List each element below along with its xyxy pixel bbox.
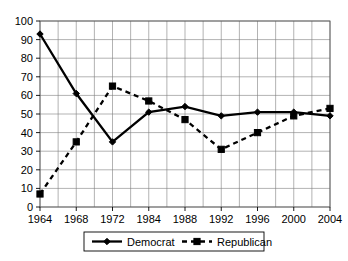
y-tick-label: 70	[21, 71, 33, 83]
data-point-republican-1988	[182, 116, 188, 122]
data-point-democrat-2004	[327, 113, 333, 119]
x-tick-label: 1968	[64, 213, 88, 225]
x-tick-label: 1972	[100, 213, 124, 225]
legend-label-democrat: Democrat	[127, 236, 175, 248]
y-tick-label: 100	[15, 15, 33, 27]
y-tick-label: 20	[21, 164, 33, 176]
data-point-republican-1972	[109, 83, 115, 89]
x-tick-label: 1964	[28, 213, 52, 225]
x-tick-label: 2004	[318, 213, 342, 225]
x-tick-label: 1988	[173, 213, 197, 225]
data-point-republican-1984	[146, 98, 152, 104]
data-point-republican-2004	[327, 105, 333, 111]
y-axis-labels: 0102030405060708090100	[15, 15, 33, 213]
data-point-republican-1996	[254, 130, 260, 136]
y-tick-label: 60	[21, 89, 33, 101]
data-point-republican-1964	[37, 191, 43, 197]
x-tick-label: 1992	[209, 213, 233, 225]
y-tick-label: 90	[21, 34, 33, 46]
y-tick-label: 10	[21, 182, 33, 194]
legend-label-republican: Republican	[217, 236, 272, 248]
chart-legend: DemocratRepublican	[84, 232, 272, 251]
y-tick-label: 0	[27, 201, 33, 213]
data-point-republican-1968	[73, 139, 79, 145]
data-point-democrat-1992	[218, 113, 224, 119]
x-tick-label: 2000	[282, 213, 306, 225]
y-tick-label: 50	[21, 108, 33, 120]
x-tick-label: 1996	[245, 213, 269, 225]
data-point-republican-1992	[218, 146, 224, 152]
data-point-democrat-1988	[182, 103, 188, 109]
legend-marker-republican	[194, 238, 200, 244]
y-tick-label: 80	[21, 52, 33, 64]
data-point-democrat-1996	[254, 109, 260, 115]
x-tick-label: 1984	[137, 213, 161, 225]
chart-container: 0102030405060708090100 19641968197219841…	[0, 0, 348, 261]
line-chart: 0102030405060708090100 19641968197219841…	[0, 0, 348, 261]
y-tick-label: 30	[21, 145, 33, 157]
x-axis-labels: 196419681972198419881992199620002004	[28, 213, 342, 225]
data-point-republican-2000	[291, 113, 297, 119]
gridlines	[40, 21, 330, 207]
y-tick-label: 40	[21, 127, 33, 139]
